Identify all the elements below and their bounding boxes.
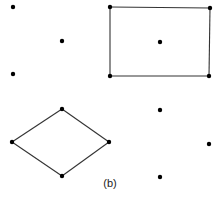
group-rectangle-point-rc [158, 40, 162, 44]
group-diamond-edge-d2-d1 [12, 109, 62, 142]
group-diamond-point-d2 [10, 140, 14, 144]
group-rectangle-edge-r2-r4 [209, 8, 210, 76]
group-bottom-right-point-b1 [158, 108, 162, 112]
group-diamond-point-d3 [107, 140, 111, 144]
group-top-left-point-a1 [11, 5, 15, 9]
group-rectangle-point-r4 [207, 74, 211, 78]
group-top-left-point-a2 [60, 39, 64, 43]
group-diamond-point-d1 [60, 107, 64, 111]
group-diamond-edge-d1-d3 [62, 109, 109, 142]
group-diamond-edge-d3-d4 [62, 142, 109, 176]
group-rectangle-point-r2 [208, 6, 212, 10]
group-diamond-point-d4 [60, 174, 64, 178]
edges-layer [12, 7, 210, 176]
group-diamond-edge-d4-d2 [12, 142, 62, 176]
group-top-left-point-a3 [11, 72, 15, 76]
group-bottom-right-point-b2 [207, 142, 211, 146]
nodes-layer [10, 5, 212, 179]
group-rectangle-point-r1 [108, 5, 112, 9]
group-bottom-right-point-b3 [158, 175, 162, 179]
group-rectangle-edge-r1-r2 [110, 7, 210, 8]
diagram-canvas: (b) [0, 0, 217, 197]
figure-caption: (b) [103, 177, 116, 189]
group-rectangle-point-r3 [108, 74, 112, 78]
